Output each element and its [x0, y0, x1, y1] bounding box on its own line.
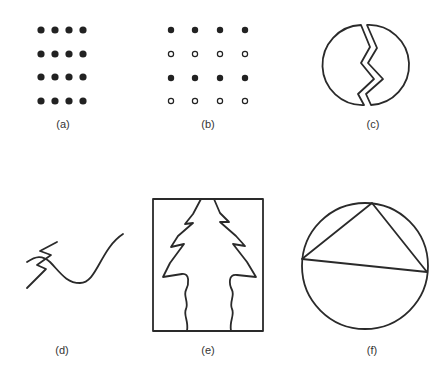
- panel-b-dot-open: [242, 98, 247, 103]
- panel-f-label: (f): [367, 344, 377, 356]
- panel-b-dot-filled: [217, 75, 223, 81]
- panel-a-dot-filled: [65, 50, 72, 57]
- panel-a-dot-filled: [79, 26, 86, 33]
- panel-d-label: (d): [55, 344, 68, 356]
- panel-d-zigzag-curve: [27, 234, 123, 288]
- panel-a-dot-filled: [51, 26, 58, 33]
- panel-b-dot-open: [217, 51, 222, 56]
- panel-a-dot-filled: [79, 50, 86, 57]
- figure-canvas: (a) (b) (c) (d) (e) (f): [0, 0, 445, 367]
- panel-c-label: (c): [367, 118, 380, 130]
- panel-c-right-half: [366, 25, 409, 105]
- panel-b-dot-open: [242, 51, 247, 56]
- panel-b-dot-open: [192, 98, 197, 103]
- panel-b-dot-filled: [242, 75, 248, 81]
- panel-a-dot-filled: [65, 97, 72, 104]
- panel-b-dot-filled: [168, 27, 174, 33]
- panel-f-inscribed-triangle: [302, 203, 428, 329]
- panel-b-dot-open: [168, 51, 173, 56]
- panel-a-dot-filled: [37, 50, 44, 57]
- panel-a-dot-filled: [65, 26, 72, 33]
- panel-b-dot-open: [217, 98, 222, 103]
- panel-b-label: (b): [201, 118, 214, 130]
- panel-b-dot-filled: [192, 27, 198, 33]
- panel-c-cracked-circle: [322, 25, 409, 105]
- panel-a-dot-filled: [51, 97, 58, 104]
- panel-e-tree-left: [163, 199, 201, 331]
- panel-b-dot-filled: [217, 27, 223, 33]
- panel-b-dot-open: [168, 98, 173, 103]
- panel-b-dot-filled: [168, 75, 174, 81]
- panel-a-dot-filled: [37, 26, 44, 33]
- panel-a-dot-filled: [65, 73, 72, 80]
- panel-a-dot-filled: [79, 97, 86, 104]
- panel-e-label: (e): [201, 344, 214, 356]
- panel-a-label: (a): [56, 118, 69, 130]
- panel-b-dot-filled: [192, 75, 198, 81]
- panel-a-dot-filled: [37, 73, 44, 80]
- panel-e-tree-right: [214, 199, 256, 331]
- panel-f-triangle: [302, 203, 427, 272]
- panel-a-dot-filled: [51, 73, 58, 80]
- panel-a-dot-grid: [37, 26, 86, 104]
- panel-a-dot-filled: [79, 73, 86, 80]
- panel-b-dot-open: [192, 51, 197, 56]
- panel-a-dot-filled: [37, 97, 44, 104]
- panel-b-dot-grid: [168, 27, 248, 104]
- panel-a-dot-filled: [51, 50, 58, 57]
- panel-d-curve: [27, 234, 123, 283]
- panel-b-dot-filled: [242, 27, 248, 33]
- panel-e-tree-box: [153, 199, 263, 331]
